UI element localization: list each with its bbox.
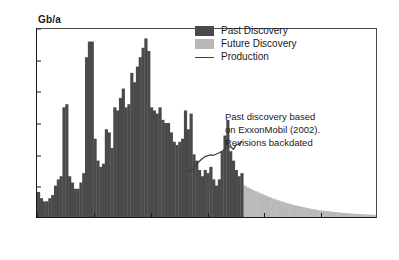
bar <box>119 98 122 217</box>
bar <box>175 145 178 217</box>
bar <box>356 214 359 217</box>
y-tick-label: 40 <box>36 87 37 98</box>
y-tick-mark <box>37 29 41 30</box>
bar <box>294 205 297 217</box>
bar <box>325 211 328 217</box>
bar <box>74 189 77 217</box>
bar <box>153 110 156 217</box>
bar <box>105 129 108 217</box>
annotation-line-2: on ExxonMobil (2002). <box>225 123 375 136</box>
bar <box>252 190 255 217</box>
annotation-line-3: Revisions backdated <box>225 136 375 149</box>
x-tick-mark <box>151 213 152 217</box>
bar <box>133 82 136 217</box>
y-tick-label: 60 <box>36 28 37 35</box>
y-tick-mark <box>37 155 41 156</box>
bar <box>91 42 94 217</box>
bar <box>142 48 145 217</box>
bar <box>156 114 159 217</box>
x-tick-mark <box>94 213 95 217</box>
legend-item-past-discovery: Past Discovery <box>195 26 297 36</box>
bar <box>232 161 235 217</box>
bar <box>150 107 153 217</box>
bar <box>130 73 133 217</box>
bar <box>207 173 210 217</box>
bar <box>178 142 181 217</box>
bar <box>359 214 362 217</box>
bar <box>257 193 260 217</box>
bar <box>342 213 345 217</box>
bar <box>147 51 150 217</box>
y-tick-mark <box>37 187 41 188</box>
bar <box>246 187 249 217</box>
y-tick-mark <box>37 92 41 93</box>
bar <box>221 151 224 217</box>
y-tick-mark <box>37 124 41 125</box>
bar <box>271 199 274 217</box>
bar <box>260 194 263 217</box>
bar <box>339 213 342 217</box>
y-tick-label: 30 <box>36 119 37 130</box>
bar <box>170 132 173 217</box>
bar <box>40 198 43 217</box>
bar <box>283 202 286 217</box>
bar <box>99 167 102 217</box>
bar <box>82 173 85 217</box>
legend-label-past-discovery: Past Discovery <box>221 26 288 36</box>
bar <box>351 214 354 217</box>
bar <box>48 198 51 217</box>
past-discovery-bars <box>37 38 244 217</box>
bar <box>71 183 74 217</box>
bar <box>190 114 193 217</box>
bar <box>218 179 221 217</box>
bar <box>212 179 215 217</box>
bar <box>331 212 334 217</box>
bar <box>286 203 289 217</box>
y-tick-label: 10 <box>36 182 37 193</box>
y-tick-label: 50 <box>36 55 37 66</box>
bar <box>204 170 207 217</box>
bar <box>125 107 128 217</box>
y-axis-unit-label: Gb/a <box>38 14 61 25</box>
bar <box>136 67 139 217</box>
bar <box>110 148 113 217</box>
x-tick-mark <box>37 213 38 217</box>
bar <box>229 151 232 217</box>
bar <box>57 179 60 217</box>
bar <box>60 176 63 217</box>
bar <box>215 186 218 217</box>
bar <box>362 214 365 217</box>
bar <box>68 176 71 217</box>
bar <box>113 107 116 217</box>
bar <box>192 154 195 217</box>
bar <box>85 57 88 217</box>
bar <box>45 201 48 217</box>
bar <box>161 120 164 217</box>
chart-figure: Gb/a 01020304050601930195019701990201020… <box>0 0 399 260</box>
bar <box>144 38 147 217</box>
bar <box>353 214 356 217</box>
bar <box>288 204 291 217</box>
bar <box>291 205 294 217</box>
bar <box>209 167 212 217</box>
bar <box>334 212 337 217</box>
annotation-line-1: Past discovery based <box>225 110 375 123</box>
bar <box>365 214 368 217</box>
y-tick-label: 20 <box>36 150 37 161</box>
bar <box>127 104 130 217</box>
legend-line-production <box>195 52 214 62</box>
legend-swatch-past-discovery <box>195 26 214 36</box>
legend-item-production: Production <box>195 52 297 62</box>
bar <box>305 208 308 217</box>
bar <box>317 210 320 217</box>
bar <box>235 170 238 217</box>
bar <box>243 186 246 217</box>
bar <box>274 199 277 217</box>
bar <box>79 183 82 217</box>
bar <box>280 201 283 217</box>
bar <box>368 214 371 217</box>
bar <box>108 132 111 217</box>
bar <box>158 107 161 217</box>
bar <box>303 207 306 217</box>
legend-item-future-discovery: Future Discovery <box>195 39 297 49</box>
